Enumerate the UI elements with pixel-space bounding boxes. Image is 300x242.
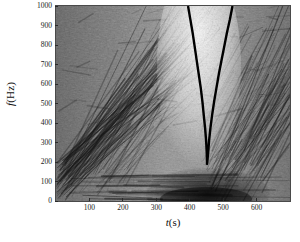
y-tickmark-500 [55, 103, 58, 104]
y-tickmark-800 [55, 45, 58, 46]
x-axis-unit: (s) [169, 216, 181, 228]
x-tick-100: 100 [72, 204, 106, 212]
y-tick-500: 500 [12, 100, 52, 108]
y-axis-label: f(Hz) [4, 62, 16, 126]
y-tick-600: 600 [12, 80, 52, 88]
y-tickmark-900 [55, 25, 58, 26]
x-tickmark-300 [156, 198, 157, 201]
x-tick-300: 300 [139, 204, 173, 212]
y-tick-100: 100 [12, 178, 52, 186]
y-tick-0: 0 [12, 197, 52, 205]
y-tick-1000: 1000 [12, 2, 52, 10]
y-tick-400: 400 [12, 119, 52, 127]
y-tickmark-200 [55, 162, 58, 163]
y-tick-800: 800 [12, 41, 52, 49]
y-tick-700: 700 [12, 61, 52, 69]
y-tickmark-700 [55, 64, 58, 65]
spectrogram-canvas [56, 6, 290, 201]
x-tickmark-500 [223, 198, 224, 201]
x-tickmark-600 [256, 198, 257, 201]
y-tick-200: 200 [12, 158, 52, 166]
y-tickmark-1000 [55, 6, 58, 7]
spectrogram-figure: f(Hz) t(s) 01002003004005006007008009001… [0, 0, 300, 242]
spectrogram-panel [55, 5, 291, 202]
x-tick-400: 400 [173, 204, 207, 212]
y-tickmark-100 [55, 181, 58, 182]
x-tick-200: 200 [106, 204, 140, 212]
y-tick-300: 300 [12, 139, 52, 147]
y-tickmark-300 [55, 142, 58, 143]
x-axis-label: t(s) [55, 216, 291, 228]
y-tickmark-0 [55, 201, 58, 202]
y-tickmark-400 [55, 123, 58, 124]
y-tick-900: 900 [12, 22, 52, 30]
y-tickmark-600 [55, 84, 58, 85]
x-tick-600: 600 [240, 204, 274, 212]
x-tick-500: 500 [206, 204, 240, 212]
x-tickmark-400 [189, 198, 190, 201]
x-tickmark-100 [89, 198, 90, 201]
x-tickmark-200 [122, 198, 123, 201]
